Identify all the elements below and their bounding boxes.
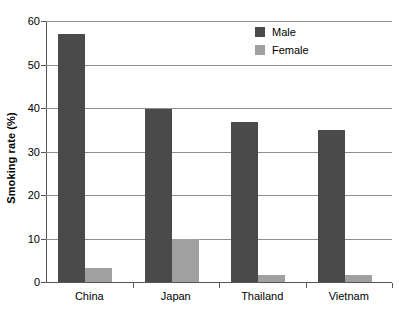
- y-tick-label-10: 10: [0, 233, 46, 245]
- male-swatch-icon: [255, 27, 265, 37]
- gridline-60: [46, 21, 392, 22]
- bar-vietnam-male: [318, 130, 345, 282]
- chart-legend: Male Female: [255, 23, 365, 59]
- bar-japan-female: [172, 239, 199, 282]
- y-tick-label-20: 20: [0, 189, 46, 201]
- gridline-50: [46, 65, 392, 66]
- x-category-label-thailand: Thailand: [241, 290, 283, 302]
- legend-label-male: Male: [272, 26, 296, 38]
- bar-thailand-female: [258, 275, 285, 282]
- female-swatch-icon: [255, 45, 265, 55]
- gridline-40: [46, 108, 392, 109]
- bar-vietnam-female: [345, 275, 372, 282]
- legend-item-male: Male: [255, 23, 365, 41]
- y-tick-label-60: 60: [0, 15, 46, 27]
- smoking-rate-bar-chart: Smoking rate (%) 0102030405060 ChinaJapa…: [0, 0, 399, 315]
- y-tick-label-30: 30: [0, 146, 46, 158]
- bar-thailand-male: [231, 122, 258, 282]
- bar-china-male: [58, 34, 85, 282]
- y-tick-label-40: 40: [0, 102, 46, 114]
- x-tick-mark-3: [392, 283, 393, 288]
- x-tick-mark-0: [133, 283, 134, 288]
- x-category-label-japan: Japan: [161, 290, 191, 302]
- y-axis-title: Smoking rate (%): [0, 0, 22, 315]
- y-tick-label-50: 50: [0, 59, 46, 71]
- x-category-label-china: China: [75, 290, 104, 302]
- bar-china-female: [85, 268, 112, 282]
- x-category-label-vietnam: Vietnam: [329, 290, 369, 302]
- legend-item-female: Female: [255, 41, 365, 59]
- legend-label-female: Female: [272, 44, 309, 56]
- y-tick-label-0: 0: [0, 276, 46, 288]
- plot-area: [46, 21, 392, 282]
- x-tick-mark-1: [219, 283, 220, 288]
- bar-japan-male: [145, 109, 172, 282]
- x-tick-mark-2: [306, 283, 307, 288]
